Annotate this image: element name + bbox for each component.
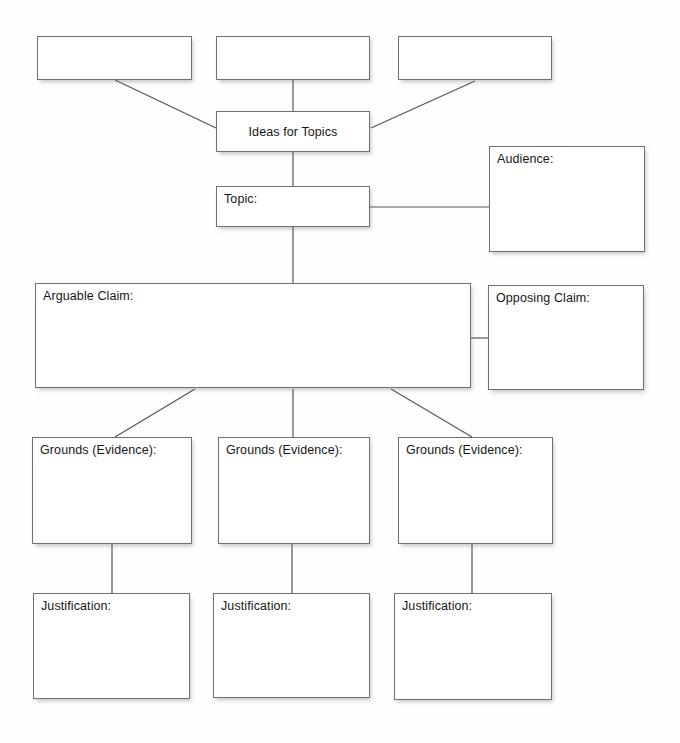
box-label-grounds-evidence-2: Grounds (Evidence):	[226, 443, 343, 457]
connector-blank3-to-ideas	[371, 81, 475, 128]
box-grounds-evidence-1[interactable]: Grounds (Evidence):	[32, 437, 192, 544]
box-justification-2[interactable]: Justification:	[213, 593, 370, 698]
box-idea-blank-2[interactable]	[216, 36, 370, 80]
box-label-opposing-claim: Opposing Claim:	[496, 291, 590, 305]
box-label-audience: Audience:	[497, 152, 554, 166]
box-label-justification-2: Justification:	[221, 599, 291, 613]
box-idea-blank-1[interactable]	[37, 36, 192, 80]
box-label-justification-1: Justification:	[41, 599, 111, 613]
box-label-justification-3: Justification:	[402, 599, 472, 613]
connector-arguable-to-grounds3	[391, 389, 472, 437]
box-audience[interactable]: Audience:	[489, 146, 645, 252]
box-grounds-evidence-2[interactable]: Grounds (Evidence):	[218, 437, 370, 544]
box-opposing-claim[interactable]: Opposing Claim:	[488, 285, 644, 390]
graphic-organizer-diagram: Ideas for TopicsTopic:Audience:Arguable …	[0, 0, 680, 743]
box-justification-3[interactable]: Justification:	[394, 593, 552, 700]
box-label-grounds-evidence-1: Grounds (Evidence):	[40, 443, 157, 457]
box-idea-blank-3[interactable]	[398, 36, 552, 80]
box-label-arguable-claim: Arguable Claim:	[43, 289, 133, 303]
box-label-grounds-evidence-3: Grounds (Evidence):	[406, 443, 523, 457]
box-ideas-for-topics[interactable]: Ideas for Topics	[216, 111, 370, 152]
box-label-topic: Topic:	[224, 192, 257, 206]
box-label-ideas-for-topics: Ideas for Topics	[249, 125, 338, 139]
box-justification-1[interactable]: Justification:	[33, 593, 190, 699]
connector-arguable-to-grounds1	[115, 389, 195, 437]
box-topic[interactable]: Topic:	[216, 186, 370, 227]
box-grounds-evidence-3[interactable]: Grounds (Evidence):	[398, 437, 553, 544]
box-arguable-claim[interactable]: Arguable Claim:	[35, 283, 471, 388]
connector-blank1-to-ideas	[115, 80, 216, 128]
